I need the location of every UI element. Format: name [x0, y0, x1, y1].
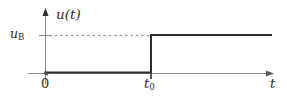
x-tick-label-t0: t0	[144, 77, 155, 90]
y-tick-label-subscript: B	[18, 32, 24, 42]
y-axis-arrow-icon	[43, 8, 49, 16]
y-tick-label-base: u	[10, 26, 18, 41]
x-tick-label-subscript: 0	[149, 82, 155, 92]
origin-label: 0	[41, 77, 49, 90]
y-axis-label-func: u	[56, 6, 65, 22]
y-axis-label: u(t)	[56, 8, 81, 22]
x-axis-label: t	[270, 77, 275, 90]
y-axis-label-arg: (t)	[65, 6, 81, 22]
y-tick-label-uB: uB	[10, 28, 24, 41]
step-function-figure: u(t) uB 0 t0 t	[0, 0, 287, 99]
